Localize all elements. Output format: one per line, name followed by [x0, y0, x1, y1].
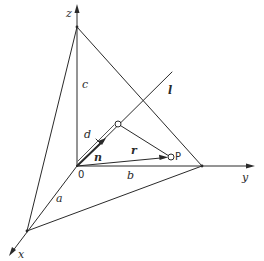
foot-point-icon	[115, 121, 121, 127]
z-arrow-icon	[75, 4, 80, 13]
r-arrow-icon	[159, 155, 168, 160]
y-arrow-icon	[246, 164, 255, 169]
point-p-label: P	[175, 152, 181, 162]
x-axis-label: x	[18, 249, 24, 260]
distance-d-label: d	[84, 129, 91, 140]
plane-edge-ca	[27, 27, 77, 231]
plane-diagram: z y x 0 c b a d n r l P	[0, 0, 264, 261]
line-l-label: l	[168, 85, 172, 96]
intercept-a-label: a	[56, 193, 63, 204]
foot-to-p-line	[118, 124, 169, 156]
x-axis	[12, 166, 77, 252]
plane-edge-ab	[27, 166, 202, 231]
intercept-b-label: b	[127, 170, 134, 181]
vector-r	[77, 158, 166, 167]
plane-edge-cb	[77, 27, 202, 166]
intercept-c-label: c	[82, 79, 88, 90]
vector-n-label: n	[94, 152, 102, 163]
origin-label: 0	[78, 170, 84, 180]
vector-r-label: r	[131, 145, 137, 156]
z-axis-label: z	[66, 8, 72, 19]
point-p-icon	[168, 154, 174, 160]
y-axis-label: y	[242, 172, 248, 183]
diagram-canvas	[0, 0, 264, 261]
